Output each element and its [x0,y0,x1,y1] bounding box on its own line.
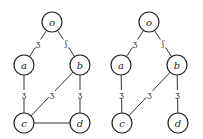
node-c: c [112,113,132,133]
edge-mark: ʒ [119,90,124,99]
node-label: d [77,118,83,129]
edge-mark: ʒ [175,90,180,99]
edge-mark: ʒ [36,39,41,48]
node-c: c [14,113,34,133]
left-graph: ʒʃʒʒʒoabcd [14,12,90,133]
node-o: o [139,12,159,32]
node-label: c [21,118,27,129]
node-label: c [119,118,125,129]
edge-mark: ʒ [22,90,27,99]
node-label: d [175,118,181,129]
node-a: a [111,55,131,75]
right-graph: ʒʃʒʒʒoabcd [111,12,188,133]
node-d: d [168,113,188,133]
edge-mark: ʒ [133,39,138,48]
node-label: b [77,60,83,71]
diagram-canvas: ʒʃʒʒʒoabcdʒʃʒʒʒoabcd [0,0,203,139]
node-b: b [70,55,90,75]
node-label: a [118,60,124,71]
node-d: d [70,113,90,133]
node-label: o [146,17,152,28]
node-b: b [167,55,187,75]
node-label: b [174,60,180,71]
node-label: a [21,60,27,71]
edge-mark: ʒ [50,90,55,99]
node-label: o [49,17,55,28]
edge-mark: ʒ [147,90,152,99]
edge-mark: ʒ [78,90,83,99]
node-a: a [14,55,34,75]
node-o: o [42,12,62,32]
